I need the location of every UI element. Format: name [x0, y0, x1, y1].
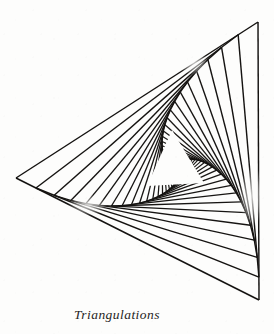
faded-patch-upper	[178, 49, 208, 75]
figure-page: Triangulations	[0, 0, 274, 334]
spiral-edge-right-0	[258, 22, 259, 300]
triangle-spiral-svg	[0, 0, 274, 306]
faded-patch-right	[239, 166, 265, 226]
faded-patch-lower-left	[68, 194, 108, 216]
triangle-spiral-figure	[0, 0, 274, 306]
figure-caption: Triangulations	[0, 305, 274, 323]
caption-label: Triangulations	[74, 307, 160, 322]
